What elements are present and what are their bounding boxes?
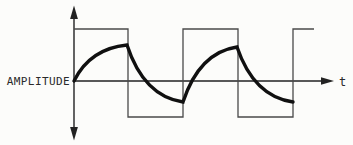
waveform-plot: AMPLITUDE t bbox=[0, 0, 353, 145]
y-axis-label: AMPLITUDE bbox=[7, 75, 70, 88]
x-axis-label: t bbox=[339, 75, 346, 89]
plot-background bbox=[0, 0, 353, 145]
waveform-figure: AMPLITUDE t bbox=[0, 0, 353, 145]
